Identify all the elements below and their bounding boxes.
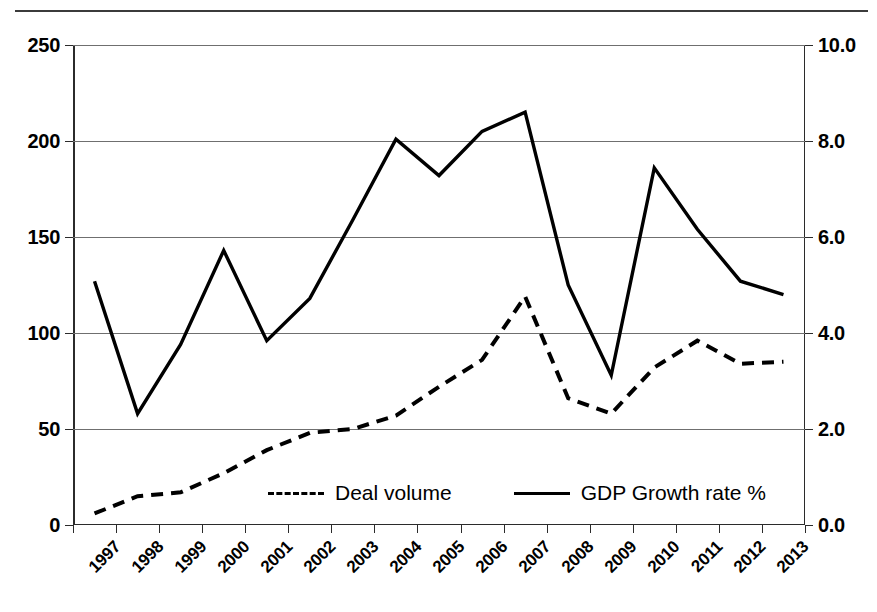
x-axis-tick-label: 1999 [170, 537, 210, 577]
y-axis-left-line [73, 45, 75, 525]
x-axis-tick-mark [374, 525, 375, 533]
y-axis-left-tick-mark [65, 333, 73, 334]
x-axis-tick-label: 2008 [558, 537, 598, 577]
x-axis-tick-mark [202, 525, 203, 533]
y-axis-right-tick-label: 10.0 [818, 34, 856, 57]
x-axis-tick-label: 2006 [472, 537, 512, 577]
top-divider-rule [15, 10, 868, 12]
y-axis-left-tick-mark [65, 525, 73, 526]
x-axis-tick-mark [288, 525, 289, 533]
y-axis-left-tick-mark [65, 141, 73, 142]
x-axis-tick-label: 2004 [386, 537, 426, 577]
x-axis-tick-label: 2001 [257, 537, 297, 577]
x-axis-tick-label: 2010 [644, 537, 684, 577]
gridline [73, 333, 805, 334]
plot-area: 050100150200250 0.02.04.06.08.010.0 1997… [73, 45, 805, 525]
y-axis-right-tick-mark [805, 45, 813, 46]
x-axis-tick-mark [762, 525, 763, 533]
x-axis-tick-mark [805, 525, 806, 533]
y-axis-right-tick-label: 8.0 [818, 130, 845, 153]
x-axis-tick-mark [590, 525, 591, 533]
x-axis-tick-label: 1997 [84, 537, 124, 577]
x-axis-tick-label: 2009 [601, 537, 641, 577]
series-lines-layer [73, 45, 805, 525]
y-axis-left-tick-label: 0 [49, 514, 60, 537]
x-axis-tick-label: 2012 [730, 537, 770, 577]
y-axis-right-tick-mark [805, 525, 813, 526]
x-axis-tick-mark [547, 525, 548, 533]
x-axis-tick-label: 2013 [773, 537, 813, 577]
x-axis-tick-mark [676, 525, 677, 533]
x-axis-tick-mark [159, 525, 160, 533]
y-axis-left-tick-label: 150 [28, 226, 60, 249]
x-axis-tick-label: 1998 [127, 537, 167, 577]
y-axis-left-tick-label: 100 [28, 322, 60, 345]
x-axis-tick-label: 2007 [515, 537, 555, 577]
y-axis-right-tick-mark [805, 333, 813, 334]
x-axis-tick-mark [417, 525, 418, 533]
x-axis-tick-label: 2000 [214, 537, 254, 577]
y-axis-right-line [804, 45, 806, 525]
y-axis-left-tick-label: 50 [38, 418, 60, 441]
x-axis-tick-mark [504, 525, 505, 533]
x-axis-tick-label: 2002 [300, 537, 340, 577]
legend-entry[interactable]: Deal volume [268, 481, 452, 505]
legend-label: GDP Growth rate % [581, 481, 766, 505]
y-axis-right-tick-mark [805, 141, 813, 142]
y-axis-right-tick-mark [805, 237, 813, 238]
chart-figure: 050100150200250 0.02.04.06.08.010.0 1997… [0, 0, 877, 612]
chart-legend: Deal volumeGDP Growth rate % [268, 481, 766, 505]
gridline [73, 429, 805, 430]
x-axis-line [73, 524, 805, 526]
y-axis-right-tick-label: 4.0 [818, 322, 845, 345]
y-axis-left-tick-mark [65, 429, 73, 430]
y-axis-right-tick-label: 2.0 [818, 418, 845, 441]
dashed-line-icon [268, 492, 324, 495]
gridline [73, 141, 805, 142]
legend-entry[interactable]: GDP Growth rate % [514, 481, 766, 505]
legend-label: Deal volume [335, 481, 452, 505]
y-axis-left-tick-mark [65, 45, 73, 46]
y-axis-left-tick-mark [65, 237, 73, 238]
x-axis-tick-mark [245, 525, 246, 533]
x-axis-tick-mark [116, 525, 117, 533]
y-axis-right-tick-label: 0.0 [818, 514, 845, 537]
y-axis-right-tick-label: 6.0 [818, 226, 845, 249]
x-axis-tick-mark [331, 525, 332, 533]
x-axis-tick-label: 2005 [429, 537, 469, 577]
x-axis-tick-mark [719, 525, 720, 533]
solid-line-icon [514, 492, 570, 495]
x-axis-tick-mark [461, 525, 462, 533]
y-axis-left-tick-label: 200 [28, 130, 60, 153]
gridline [73, 45, 805, 46]
y-axis-right-tick-mark [805, 429, 813, 430]
x-axis-tick-mark [633, 525, 634, 533]
x-axis-tick-mark [73, 525, 74, 533]
x-axis-tick-label: 2011 [688, 537, 728, 577]
x-axis-tick-label: 2003 [343, 537, 383, 577]
gridline [73, 237, 805, 238]
y-axis-left-tick-label: 250 [28, 34, 60, 57]
series-line-gdp-growth-rate [95, 112, 784, 413]
